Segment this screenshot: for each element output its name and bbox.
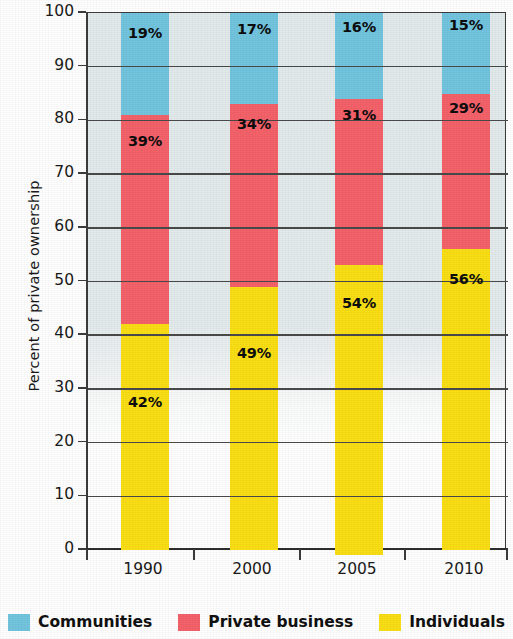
bar-segment-value-label: 29% — [440, 100, 492, 116]
bar-segment — [230, 287, 278, 550]
bar-segment — [335, 99, 383, 265]
y-axis-tick-label: 90 — [30, 56, 74, 74]
y-axis-tick-mark — [78, 495, 86, 497]
y-axis-tick-label: 40 — [30, 324, 74, 342]
y-axis-tick-label: 100 — [30, 2, 74, 20]
legend-color-swatch — [379, 614, 401, 631]
plot-area: 19%39%42%17%34%49%16%31%54%15%29%56% — [86, 12, 506, 549]
y-axis-tick-label: 70 — [30, 163, 74, 181]
y-axis-tick-mark — [78, 65, 86, 67]
gridline — [88, 227, 508, 229]
gridline — [88, 442, 508, 444]
y-axis-tick-mark — [78, 226, 86, 228]
y-axis-tick-label: 0 — [30, 539, 74, 557]
legend-item: Communities — [8, 613, 152, 631]
bar-segment — [442, 94, 490, 250]
bar-segment-value-label: 54% — [333, 295, 385, 311]
y-axis-tick-label: 50 — [30, 271, 74, 289]
gridline — [88, 388, 508, 390]
legend-color-swatch — [178, 614, 200, 631]
gridline — [88, 173, 508, 175]
y-axis-tick-mark — [78, 11, 86, 13]
gridline — [88, 66, 508, 68]
bar-segment-value-label: 49% — [228, 345, 280, 361]
gridline — [88, 496, 508, 498]
x-axis-tick-label: 1990 — [98, 560, 188, 578]
y-axis-tick-mark — [78, 172, 86, 174]
y-axis-tick-label: 80 — [30, 109, 74, 127]
y-axis-tick-mark — [78, 387, 86, 389]
chart-legend: CommunitiesPrivate businessIndividuals — [0, 607, 513, 637]
bar-segment-value-label: 34% — [228, 116, 280, 132]
y-axis-tick-label: 60 — [30, 217, 74, 235]
legend-label: Communities — [38, 613, 152, 631]
y-axis-tick-mark — [78, 548, 86, 550]
x-axis-tick-mark — [404, 549, 406, 560]
x-axis-tick-mark — [193, 549, 195, 560]
y-axis-tick-mark — [78, 441, 86, 443]
bar-segment — [442, 249, 490, 550]
y-axis-tick-label: 20 — [30, 432, 74, 450]
x-axis-tick-mark — [86, 549, 88, 560]
y-axis-tick-label: 10 — [30, 485, 74, 503]
legend-color-swatch — [8, 614, 30, 631]
chart-figure: Percent of private ownership 10090807060… — [0, 0, 513, 639]
gridline — [88, 334, 508, 336]
bar-segment-value-label: 56% — [440, 271, 492, 287]
legend-item: Private business — [178, 613, 353, 631]
bar-segment-value-label: 42% — [119, 394, 171, 410]
x-axis-tick-label: 2000 — [207, 560, 297, 578]
x-axis-tick-mark — [506, 549, 508, 560]
bar-segment-value-label: 16% — [333, 19, 385, 35]
gridline — [88, 120, 508, 122]
bar-segment-value-label: 39% — [119, 133, 171, 149]
bar-segment-value-label: 17% — [228, 21, 280, 37]
y-axis-tick-mark — [78, 119, 86, 121]
bar-segment — [121, 324, 169, 550]
y-axis-tick-label: 30 — [30, 378, 74, 396]
x-axis-tick-label: 2005 — [312, 560, 402, 578]
y-axis-tick-mark — [78, 333, 86, 335]
legend-label: Individuals — [409, 613, 505, 631]
bar-segment-value-label: 19% — [119, 25, 171, 41]
bar-segment-value-label: 15% — [440, 17, 492, 33]
y-axis-tick-mark — [78, 280, 86, 282]
x-axis-tick-label: 2010 — [419, 560, 509, 578]
legend-label: Private business — [208, 613, 353, 631]
x-axis-tick-mark — [299, 549, 301, 560]
legend-item: Individuals — [379, 613, 505, 631]
bar-segment-value-label: 31% — [333, 107, 385, 123]
